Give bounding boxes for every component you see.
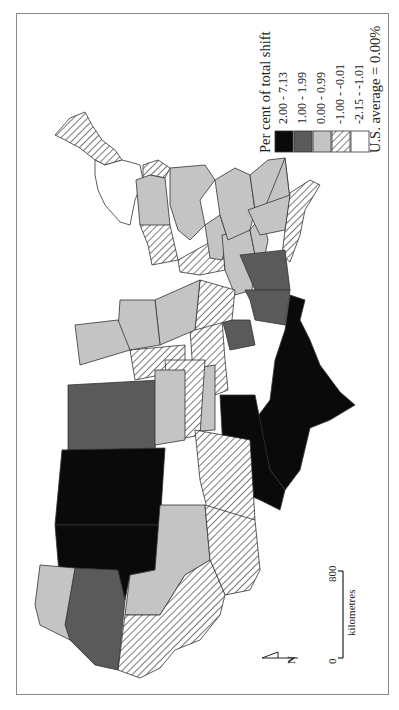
legend-label-class1: 2.00 - 7.13 [276, 72, 291, 124]
region-oregon [65, 568, 125, 670]
scale-bar [338, 571, 343, 658]
legend-title: Per cent of total shift [257, 31, 274, 153]
region-alabama [222, 320, 255, 350]
legend-label-class3: 0.00 - 0.99 [314, 72, 329, 124]
region-pennsylvania [140, 225, 178, 265]
us-average-note: U.S. average = 0.00% [367, 26, 384, 153]
region-montana [68, 380, 160, 450]
region-new-england-white [95, 160, 143, 225]
scale-unit-label: kilometres [345, 590, 357, 636]
legend-swatch-class4 [332, 131, 350, 152]
region-colorado [155, 370, 185, 445]
north-label: N [285, 656, 297, 664]
region-new-york [136, 175, 170, 228]
legend-swatches [275, 131, 369, 152]
region-georgia [245, 290, 290, 325]
legend-swatch-class2 [294, 131, 312, 152]
legend-label-class5: -2.15 - -1.01 [352, 64, 367, 124]
region-florida [255, 295, 355, 490]
region-idaho-wyoming [55, 448, 165, 525]
legend-swatch-class3 [313, 131, 331, 152]
scale-end-label: 800 [326, 566, 338, 583]
legend-swatch-class1 [275, 131, 293, 152]
legend-label-class4: -1.00 - -0.01 [333, 64, 348, 124]
legend-label-class2: 1.00 - 1.99 [295, 72, 310, 124]
region-maine [55, 112, 122, 165]
scale-start-label: 0 [326, 659, 338, 665]
